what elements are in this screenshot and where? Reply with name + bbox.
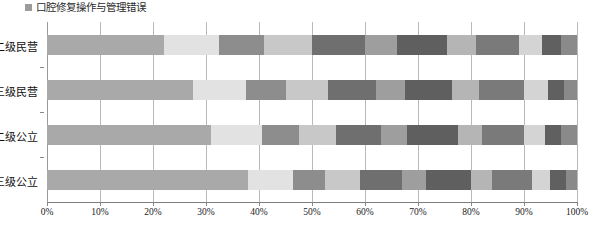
bar-segment[interactable]: [360, 170, 402, 190]
bar-segment[interactable]: [336, 125, 381, 145]
y-tick: [40, 112, 44, 113]
bar-segment[interactable]: [458, 125, 482, 145]
x-tick-label: 100%: [566, 207, 588, 217]
bar-segment[interactable]: [426, 170, 471, 190]
y-tick-label: 三级公立: [0, 173, 38, 189]
y-tick: [40, 67, 44, 68]
bar-segment[interactable]: [264, 35, 312, 55]
y-tick: [40, 157, 44, 158]
x-tick: [259, 202, 260, 206]
x-tick-label: 0%: [41, 207, 54, 217]
bar-segment[interactable]: [482, 125, 524, 145]
bar-segment[interactable]: [471, 170, 492, 190]
stacked-bar-chart: 口腔修复操作与管理错误 二级民营三级民营二级公立三级公立 0%10%20%30%…: [0, 0, 594, 225]
x-tick: [100, 202, 101, 206]
bar-segment[interactable]: [476, 35, 518, 55]
x-tick-label: 10%: [91, 207, 108, 217]
x-tick: [47, 202, 48, 206]
x-tick: [153, 202, 154, 206]
bar-segment[interactable]: [193, 80, 246, 100]
x-tick-label: 90%: [515, 207, 532, 217]
y-tick-label: 二级公立: [0, 128, 38, 144]
bar-segment[interactable]: [519, 35, 543, 55]
legend-swatch-icon: [25, 4, 32, 11]
bar-row[interactable]: [47, 35, 577, 55]
y-tick-label: 三级民营: [0, 83, 38, 99]
bar-segment[interactable]: [299, 125, 336, 145]
bar-segment[interactable]: [248, 170, 293, 190]
bar-segment[interactable]: [447, 35, 476, 55]
bar-segment[interactable]: [47, 170, 248, 190]
bar-segment[interactable]: [312, 35, 365, 55]
x-tick: [418, 202, 419, 206]
bar-segment[interactable]: [452, 80, 479, 100]
bar-segment[interactable]: [405, 80, 453, 100]
bar-segment[interactable]: [381, 125, 408, 145]
bar-row[interactable]: [47, 170, 577, 190]
x-tick-label: 50%: [303, 207, 320, 217]
x-tick: [312, 202, 313, 206]
bar-segment[interactable]: [524, 80, 548, 100]
bar-segment[interactable]: [397, 35, 447, 55]
bar-segment[interactable]: [286, 80, 328, 100]
bar-segment[interactable]: [566, 170, 577, 190]
x-tick-label: 20%: [144, 207, 161, 217]
bar-segment[interactable]: [479, 80, 524, 100]
bar-segment[interactable]: [376, 80, 405, 100]
x-tick-label: 40%: [250, 207, 267, 217]
bar-segment[interactable]: [561, 35, 577, 55]
bar-segment[interactable]: [246, 80, 286, 100]
x-tick: [206, 202, 207, 206]
x-tick-label: 70%: [409, 207, 426, 217]
chart-legend: 口腔修复操作与管理错误: [25, 0, 146, 14]
y-axis-labels: 二级民营三级民营二级公立三级公立: [0, 22, 44, 202]
bar-segment[interactable]: [365, 35, 397, 55]
bar-segment[interactable]: [561, 125, 577, 145]
bar-segment[interactable]: [219, 35, 264, 55]
bar-segment[interactable]: [548, 80, 564, 100]
bar-segment[interactable]: [492, 170, 532, 190]
bar-segment[interactable]: [211, 125, 261, 145]
bar-segment[interactable]: [402, 170, 426, 190]
bar-segment[interactable]: [328, 80, 376, 100]
gridline: [577, 22, 578, 202]
bar-segment[interactable]: [164, 35, 220, 55]
bar-segment[interactable]: [407, 125, 457, 145]
plot-area: 0%10%20%30%40%50%60%70%80%90%100%: [47, 22, 577, 202]
bar-segment[interactable]: [262, 125, 299, 145]
bar-segment[interactable]: [524, 125, 545, 145]
bar-segment[interactable]: [532, 170, 551, 190]
bar-row[interactable]: [47, 125, 577, 145]
bar-segment[interactable]: [47, 125, 211, 145]
legend-label: 口腔修复操作与管理错误: [36, 2, 146, 13]
bar-segment[interactable]: [564, 80, 577, 100]
x-tick-label: 30%: [197, 207, 214, 217]
bar-segment[interactable]: [293, 170, 325, 190]
x-tick: [471, 202, 472, 206]
y-tick-label: 二级民营: [0, 38, 38, 54]
bar-segment[interactable]: [545, 125, 561, 145]
x-tick: [365, 202, 366, 206]
x-tick-label: 60%: [356, 207, 373, 217]
bar-segment[interactable]: [542, 35, 561, 55]
bar-segment[interactable]: [47, 80, 193, 100]
bar-row[interactable]: [47, 80, 577, 100]
x-tick-label: 80%: [462, 207, 479, 217]
bar-segment[interactable]: [47, 35, 164, 55]
x-tick: [577, 202, 578, 206]
bar-segment[interactable]: [325, 170, 359, 190]
bar-segment[interactable]: [550, 170, 566, 190]
x-tick: [524, 202, 525, 206]
